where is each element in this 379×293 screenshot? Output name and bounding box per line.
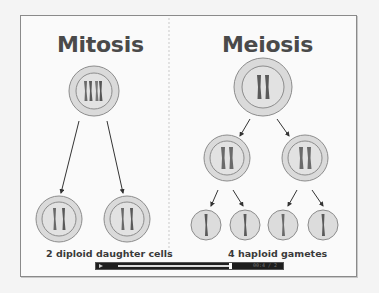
meiosis-result-label: 4 haploid gametes [228,248,327,259]
mitosis-daughter-cell [104,196,150,242]
arrow-icon [107,121,123,193]
time-display: 00:4 / 2 [253,262,277,268]
progress-thumb[interactable] [229,263,232,269]
arrow-icon [240,119,250,136]
mitosis-title: Mitosis [57,32,144,57]
arrow-icon [61,121,79,193]
arrow-icon [211,190,218,206]
mitosis-daughter-cell [36,196,82,242]
meiosis-gamete-cell [308,210,338,240]
mitosis-parent-cell [69,66,119,116]
arrow-icon [277,119,289,136]
video-control-bar[interactable]: 00:4 / 2 [95,262,284,270]
mitosis-result-label: 2 diploid daughter cells [46,248,173,259]
meiosis-title: Meiosis [222,32,313,57]
arrow-icon [233,190,243,206]
meiosis-parent-cell [234,58,292,116]
arrow-icon [312,190,323,206]
meiosis-gamete-cell [230,210,260,240]
progress-track[interactable] [118,265,230,267]
meiosis-intermediate-cell [204,135,250,181]
arrow-icon [288,190,297,206]
meiosis-gamete-cell [268,210,298,240]
play-icon[interactable] [99,264,103,268]
meiosis-gamete-cell [191,210,221,240]
meiosis-intermediate-cell [282,135,328,181]
